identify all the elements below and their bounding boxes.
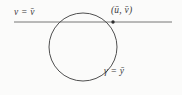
intersection-point-label: (ū, v̄) <box>111 6 132 16</box>
circle-equation-label: γ = ȳ <box>104 67 124 77</box>
figure-container: v = v̄ (ū, v̄) γ = ȳ <box>0 0 182 95</box>
intersection-point-dot <box>111 20 114 23</box>
line-equation-label: v = v̄ <box>14 8 35 18</box>
